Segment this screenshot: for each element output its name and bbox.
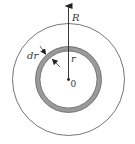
dr-arrow-outer (40, 46, 46, 54)
dr-arrow-inner (53, 60, 61, 68)
label-dr: dr (27, 50, 39, 61)
label-R: R (71, 12, 80, 23)
center-point (67, 78, 70, 81)
label-r: r (71, 53, 77, 64)
label-center: 0 (71, 79, 77, 89)
concentric-shell-diagram: R r dr 0 (0, 0, 135, 144)
